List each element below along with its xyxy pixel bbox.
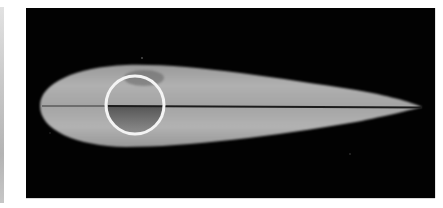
speckle-dot — [49, 132, 50, 133]
airfoil-scan-image — [26, 8, 435, 198]
left-gradient-strip — [0, 7, 4, 203]
airfoil-scan-graphic — [26, 8, 435, 198]
speckle-dot — [141, 57, 143, 59]
speckle-dot — [349, 153, 351, 155]
